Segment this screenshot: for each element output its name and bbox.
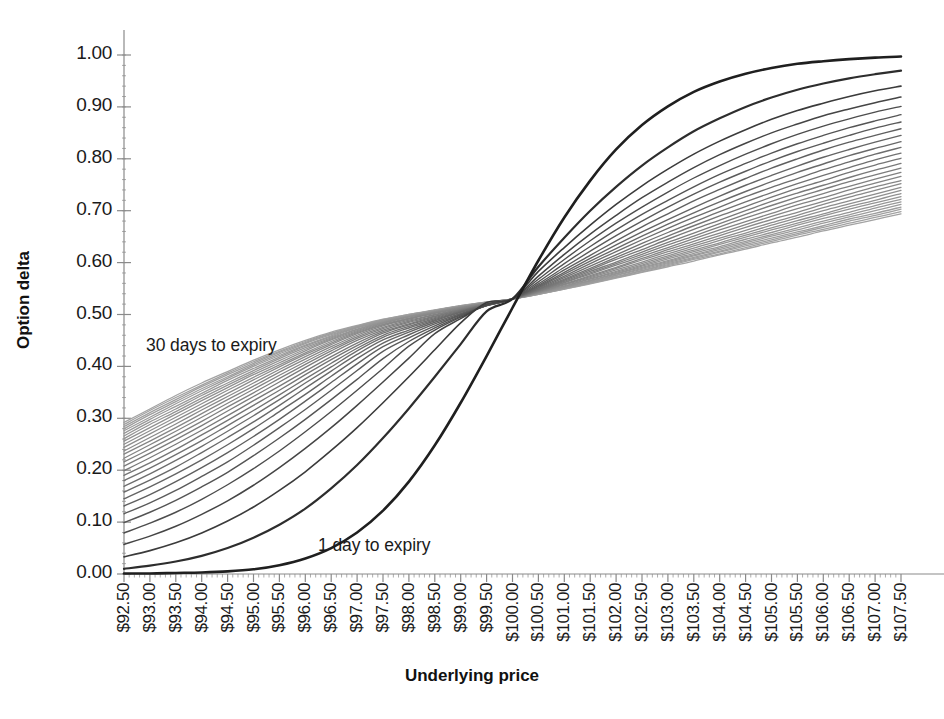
- y-tick-label: 0.20: [28, 457, 112, 479]
- annotation-1-day: 1 day to expiry: [318, 535, 430, 556]
- y-tick-label: 0.50: [28, 302, 112, 324]
- y-tick-label: 0.00: [28, 561, 112, 583]
- y-tick-label: 0.70: [28, 198, 112, 220]
- x-tick-label: $98.00: [399, 583, 419, 633]
- x-tick-label: $107.50: [891, 583, 911, 642]
- series-lines: [124, 57, 901, 574]
- x-tick-label: $94.00: [192, 583, 212, 633]
- y-tick-label: 0.60: [28, 250, 112, 272]
- x-tick-label-wrap: $101.50: [577, 583, 603, 673]
- y-tick-label: 0.30: [28, 405, 112, 427]
- x-tick-label: $100.50: [528, 583, 548, 642]
- x-tick-label-wrap: $105.00: [759, 583, 785, 673]
- x-tick-label-wrap: $94.00: [189, 583, 215, 673]
- x-tick-label: $106.50: [839, 583, 859, 642]
- x-tick-label-wrap: $94.50: [215, 583, 241, 673]
- x-tick-label-wrap: $105.50: [784, 583, 810, 673]
- x-tick-label: $101.00: [554, 583, 574, 642]
- x-tick-label: $101.50: [580, 583, 600, 642]
- x-tick-label: $100.00: [503, 583, 523, 642]
- x-tick-label-wrap: $100.50: [525, 583, 551, 673]
- x-tick-label-wrap: $99.00: [448, 583, 474, 673]
- x-tick-label: $97.50: [373, 583, 393, 633]
- x-tick-label-wrap: $96.00: [292, 583, 318, 673]
- x-tick-label: $102.00: [606, 583, 626, 642]
- x-tick-label: $93.50: [166, 583, 186, 633]
- x-tick-label: $95.00: [244, 583, 264, 633]
- x-tick-label-wrap: $95.00: [241, 583, 267, 673]
- x-tick-label: $97.00: [347, 583, 367, 633]
- x-tick-label: $99.00: [451, 583, 471, 633]
- x-tick-label-wrap: $97.50: [370, 583, 396, 673]
- x-tick-label-wrap: $100.00: [500, 583, 526, 673]
- x-tick-label-wrap: $92.50: [111, 583, 137, 673]
- x-tick-label-wrap: $104.00: [707, 583, 733, 673]
- x-tick-label-wrap: $98.50: [422, 583, 448, 673]
- x-tick-label: $104.00: [710, 583, 730, 642]
- x-tick-label-wrap: $101.00: [551, 583, 577, 673]
- x-tick-label-wrap: $93.50: [163, 583, 189, 673]
- x-tick-label: $103.00: [658, 583, 678, 642]
- x-tick-label-wrap: $102.00: [603, 583, 629, 673]
- x-tick-label-wrap: $103.50: [681, 583, 707, 673]
- x-tick-label-wrap: $106.00: [810, 583, 836, 673]
- x-tick-label: $99.50: [477, 583, 497, 633]
- x-tick-label-wrap: $95.50: [266, 583, 292, 673]
- x-tick-label-wrap: $97.00: [344, 583, 370, 673]
- x-tick-label: $105.50: [787, 583, 807, 642]
- x-tick-label-wrap: $93.00: [137, 583, 163, 673]
- delta-vs-underlying-chart: Option delta Underlying price 0.000.100.…: [0, 0, 944, 719]
- axis-lines: [117, 30, 944, 582]
- x-tick-label-wrap: $102.50: [629, 583, 655, 673]
- y-tick-label: 0.80: [28, 146, 112, 168]
- y-tick-label: 1.00: [28, 42, 112, 64]
- x-tick-label: $106.00: [813, 583, 833, 642]
- x-tick-label: $107.00: [865, 583, 885, 642]
- x-tick-label: $94.50: [218, 583, 238, 633]
- x-tick-label-wrap: $103.00: [655, 583, 681, 673]
- x-tick-label: $104.50: [736, 583, 756, 642]
- x-tick-label-wrap: $104.50: [733, 583, 759, 673]
- x-tick-label: $105.00: [762, 583, 782, 642]
- x-tick-label: $95.50: [269, 583, 289, 633]
- y-tick-label: 0.90: [28, 94, 112, 116]
- x-tick-label: $102.50: [632, 583, 652, 642]
- y-tick-label: 0.40: [28, 353, 112, 375]
- x-tick-label: $103.50: [684, 583, 704, 642]
- x-tick-label-wrap: $98.00: [396, 583, 422, 673]
- x-tick-label-wrap: $107.00: [862, 583, 888, 673]
- x-tick-label: $92.50: [114, 583, 134, 633]
- x-tick-label-wrap: $106.50: [836, 583, 862, 673]
- x-tick-label: $96.50: [321, 583, 341, 633]
- x-tick-label: $98.50: [425, 583, 445, 633]
- annotation-30-days: 30 days to expiry: [146, 335, 277, 356]
- y-tick-label: 0.10: [28, 509, 112, 531]
- x-tick-label-wrap: $99.50: [474, 583, 500, 673]
- x-tick-label-wrap: $107.50: [888, 583, 914, 673]
- x-tick-label-wrap: $96.50: [318, 583, 344, 673]
- x-tick-label: $96.00: [295, 583, 315, 633]
- x-tick-label: $93.00: [140, 583, 160, 633]
